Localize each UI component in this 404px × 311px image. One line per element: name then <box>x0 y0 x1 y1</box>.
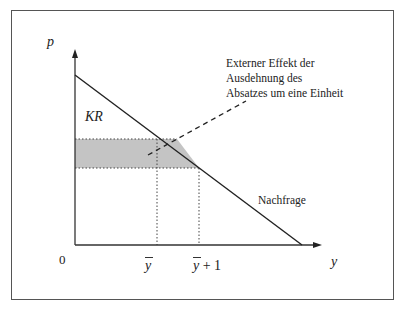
tick-ybar-plus-one: y + 1 <box>193 258 221 274</box>
annotation-line-2: Ausdehnung des <box>226 71 343 86</box>
annotation-line-3: Absatzes um eine Einheit <box>226 86 343 101</box>
overbar <box>145 257 153 258</box>
overbar <box>193 257 201 258</box>
annotation-text: Externer Effekt der Ausdehnung des Absat… <box>226 56 343 101</box>
x-axis-label: y <box>331 254 337 270</box>
tick-ybar-text: y <box>145 258 151 273</box>
tick-ybar-plus-one-suffix: + 1 <box>203 258 221 273</box>
tick-ybar: y <box>145 258 151 274</box>
origin-label: 0 <box>59 252 66 268</box>
annotation-line-1: Externer Effekt der <box>226 56 343 71</box>
area-label-kr: KR <box>85 109 103 125</box>
tick-ybar-plus-one-base: y <box>193 258 199 273</box>
demand-curve-label: Nachfrage <box>258 194 306 206</box>
x-axis-arrow-icon <box>313 242 322 248</box>
y-axis-arrow-icon <box>72 49 78 58</box>
y-axis-label: p <box>47 34 54 50</box>
